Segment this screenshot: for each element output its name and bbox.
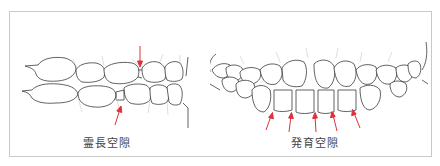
figure-frame: 霊長空隙 (9, 11, 432, 157)
panel-primate-space: 霊長空隙 (10, 12, 210, 158)
caption-developmental-space: 発育空隙 (291, 134, 339, 150)
panel-developmental-space: 発育空隙 (210, 12, 432, 158)
caption-primate-space: 霊長空隙 (83, 134, 131, 150)
red-arrow-icon (266, 110, 360, 133)
